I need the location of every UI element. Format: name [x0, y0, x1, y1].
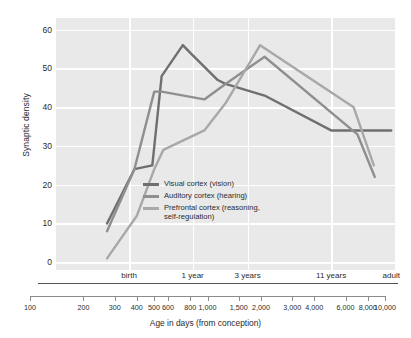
chart-legend: Visual cortex (vision)Auditory cortex (h… — [143, 180, 260, 225]
x-axis-rule — [38, 283, 398, 284]
ruler-tick — [168, 296, 169, 301]
ruler-tick — [385, 296, 386, 301]
era-label: adult — [383, 271, 400, 280]
ruler-tick — [208, 296, 209, 301]
x-tick-label: 10,000 — [374, 303, 396, 312]
x-tick-label: 600 — [162, 303, 174, 312]
ruler-tick — [83, 296, 84, 301]
y-tick-label: 30 — [26, 141, 52, 151]
x-tick-label: 6,000 — [337, 303, 355, 312]
x-tick-label: 4,000 — [305, 303, 323, 312]
y-tick-label: 0 — [26, 257, 52, 267]
y-tick-label: 60 — [26, 25, 52, 35]
x-tick-label: 3,000 — [283, 303, 301, 312]
ruler-tick — [346, 296, 347, 301]
days-scale-ruler: 1002003004005006008001,0001,5002,0003,00… — [30, 296, 385, 302]
ruler-tick — [239, 296, 240, 301]
ruler-tick — [115, 296, 116, 301]
x-tick-label: 200 — [77, 303, 89, 312]
x-axis-title: Age in days (from conception) — [0, 318, 411, 328]
synaptic-density-chart: Synaptic density 0102030405060 Visual co… — [0, 0, 411, 338]
x-tick-label: 1,000 — [199, 303, 217, 312]
x-tick-label: 300 — [109, 303, 121, 312]
legend-item: Visual cortex (vision) — [143, 180, 260, 189]
legend-item: Auditory cortex (hearing) — [143, 192, 260, 201]
x-tick-label: 2,000 — [252, 303, 270, 312]
era-label: birth — [121, 271, 137, 280]
ruler-tick — [154, 296, 155, 301]
x-tick-label: 800 — [184, 303, 196, 312]
legend-item: Prefrontal cortex (reasoning, self-regul… — [143, 204, 260, 222]
y-axis-title: Synaptic density — [21, 55, 31, 195]
era-label: 3 years — [234, 271, 260, 280]
y-tick-label: 10 — [26, 218, 52, 228]
legend-swatch-icon — [143, 195, 159, 198]
x-tick-label: 400 — [131, 303, 143, 312]
legend-label: Prefrontal cortex (reasoning, self-regul… — [164, 204, 260, 222]
y-tick-label: 50 — [26, 63, 52, 73]
series-line — [107, 45, 374, 258]
x-tick-label: 500 — [148, 303, 160, 312]
legend-swatch-icon — [143, 207, 159, 210]
legend-label: Visual cortex (vision) — [164, 180, 234, 189]
ruler-tick — [368, 296, 369, 301]
legend-label: Auditory cortex (hearing) — [164, 192, 247, 201]
ruler-tick — [30, 296, 31, 301]
ruler-tick — [314, 296, 315, 301]
ruler-tick — [137, 296, 138, 301]
y-tick-label: 20 — [26, 180, 52, 190]
ruler-tick — [261, 296, 262, 301]
x-tick-label: 100 — [24, 303, 36, 312]
era-label: 11 years — [316, 271, 346, 280]
series-lines-layer — [56, 18, 395, 270]
era-label: 1 year — [182, 271, 204, 280]
legend-swatch-icon — [143, 183, 159, 186]
x-tick-label: 1,500 — [230, 303, 248, 312]
y-tick-label: 40 — [26, 102, 52, 112]
ruler-tick — [190, 296, 191, 301]
ruler-tick — [292, 296, 293, 301]
